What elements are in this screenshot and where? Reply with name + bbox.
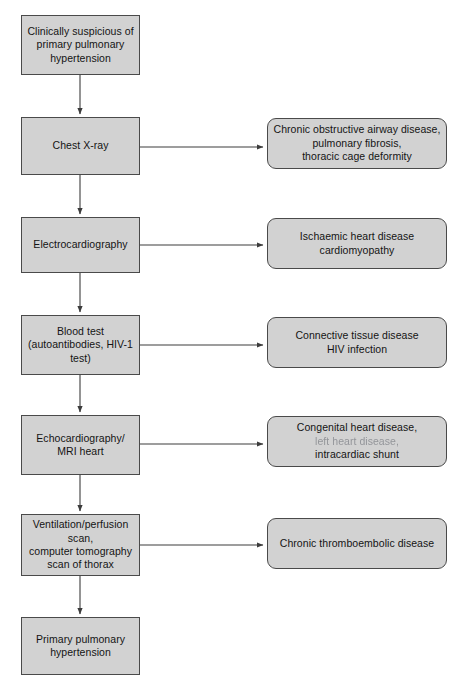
node-primary-pulmonary-hypertension: Primary pulmonary hypertension	[21, 617, 140, 675]
node-clinical-suspicion: Clinically suspicious of primary pulmona…	[21, 15, 140, 75]
node-echo-findings-text: Congenital heart disease,left heart dise…	[268, 421, 446, 461]
node-electrocardiography: Electrocardiography	[21, 217, 140, 273]
node-clinical-suspicion-label: Clinically suspicious of primary pulmona…	[22, 25, 139, 65]
node-echocardiography: Echocardiography/ MRI heart	[21, 415, 140, 475]
node-echo-findings: Congenital heart disease,left heart dise…	[267, 416, 447, 467]
node-vq-ct-findings: Chronic thromboembolic disease	[267, 518, 447, 569]
node-echocardiography-label: Echocardiography/ MRI heart	[22, 432, 139, 459]
node-chest-xray-findings: Chronic obstructive airway disease, pulm…	[267, 118, 447, 169]
node-blood-test-findings-label: Connective tissue disease HIV infection	[268, 329, 446, 356]
node-blood-test-label: Blood test (autoantibodies, HIV-1 test)	[22, 325, 139, 365]
node-electrocardiography-label: Electrocardiography	[22, 238, 139, 251]
node-chest-xray-findings-label: Chronic obstructive airway disease, pulm…	[268, 123, 446, 163]
node-primary-pulmonary-hypertension-label: Primary pulmonary hypertension	[22, 633, 139, 660]
node-echo-findings-line-1: Congenital heart disease,	[297, 421, 417, 433]
node-chest-xray: Chest X-ray	[21, 117, 140, 175]
node-echo-findings-line-2: left heart disease,	[315, 435, 399, 447]
node-blood-test-findings: Connective tissue disease HIV infection	[267, 317, 447, 368]
node-chest-xray-label: Chest X-ray	[22, 139, 139, 152]
node-blood-test: Blood test (autoantibodies, HIV-1 test)	[21, 315, 140, 375]
node-ventilation-perfusion-scan-label: Ventilation/perfusion scan, computer tom…	[22, 518, 139, 572]
node-ventilation-perfusion-scan: Ventilation/perfusion scan, computer tom…	[21, 514, 140, 576]
node-ecg-findings-label: Ischaemic heart disease cardiomyopathy	[268, 230, 446, 257]
node-echo-findings-line-3: intracardiac shunt	[315, 448, 399, 460]
node-ecg-findings: Ischaemic heart disease cardiomyopathy	[267, 218, 447, 269]
node-vq-ct-findings-label: Chronic thromboembolic disease	[268, 537, 446, 550]
flowchart-canvas: Clinically suspicious of primary pulmona…	[0, 0, 464, 682]
